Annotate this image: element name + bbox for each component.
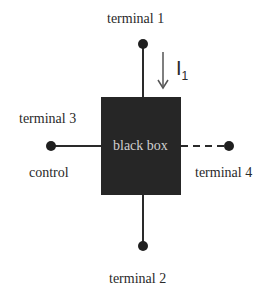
- terminal-4-label: terminal 4: [195, 166, 252, 180]
- current-label: I1: [176, 58, 188, 82]
- terminal-3-label: terminal 3: [19, 112, 76, 126]
- terminal-2-node: [138, 241, 148, 251]
- current-subscript: 1: [182, 69, 189, 83]
- terminal-2-label: terminal 2: [109, 272, 166, 286]
- black-box-label: black box: [113, 139, 168, 153]
- terminal-1-label: terminal 1: [107, 12, 164, 26]
- terminal-1-node: [138, 39, 148, 49]
- terminal-4-node: [224, 141, 234, 151]
- terminal-3-node: [46, 141, 56, 151]
- terminal-3-control-label: control: [29, 166, 69, 180]
